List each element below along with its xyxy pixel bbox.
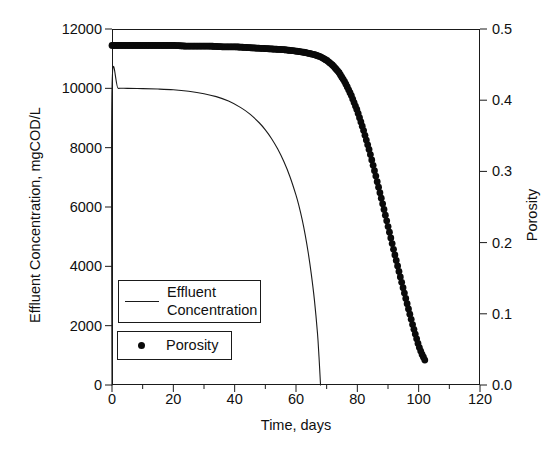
legend-label-porosity: Porosity (164, 337, 218, 354)
tick-label: 6000 (70, 200, 102, 215)
legend-entry-porosity: Porosity (117, 331, 232, 360)
tick-label: 60 (288, 392, 304, 407)
tick-label: 120 (468, 392, 492, 407)
tick-label: 0.3 (492, 164, 512, 179)
legend-line-swatch-icon (119, 301, 165, 302)
y-axis-right-title: Porosity (524, 140, 540, 290)
tick-label: 0 (108, 392, 116, 407)
tick-label: 0.2 (492, 235, 512, 250)
tick-label: 4000 (70, 259, 102, 274)
legend-label-line2: Concentration (167, 302, 257, 318)
tick-label: 0.5 (492, 22, 512, 37)
y-axis-right-ticks (480, 29, 487, 385)
tick-label: 2000 (70, 318, 102, 333)
tick-label: 8000 (70, 140, 102, 155)
y-axis-left-ticks (105, 29, 112, 385)
x-axis-title: Time, days (112, 417, 480, 433)
legend-dot-swatch-icon (118, 342, 164, 349)
y-axis-left-tick-labels: 020004000600080001000012000 (38, 0, 102, 460)
tick-label: 12000 (62, 22, 102, 37)
tick-label: 40 (227, 392, 243, 407)
legend-label-effluent-concentration: Effluent Concentration (165, 284, 257, 318)
tick-label: 10000 (62, 81, 102, 96)
legend-label-line1: Effluent (167, 284, 216, 300)
tick-label: 80 (349, 392, 365, 407)
tick-label: 20 (165, 392, 181, 407)
tick-label: 0.4 (492, 93, 512, 108)
legend-entry-effluent-concentration: Effluent Concentration (118, 280, 261, 323)
tick-label: 0 (94, 378, 102, 393)
chart-figure: 020004000600080001000012000 0.00.10.20.3… (0, 0, 556, 460)
tick-label: 0.1 (492, 307, 512, 322)
tick-label: 100 (407, 392, 431, 407)
y-axis-left-title: Effluent Concentration, mgCOD/L (27, 90, 43, 340)
tick-label: 0.0 (492, 378, 512, 393)
